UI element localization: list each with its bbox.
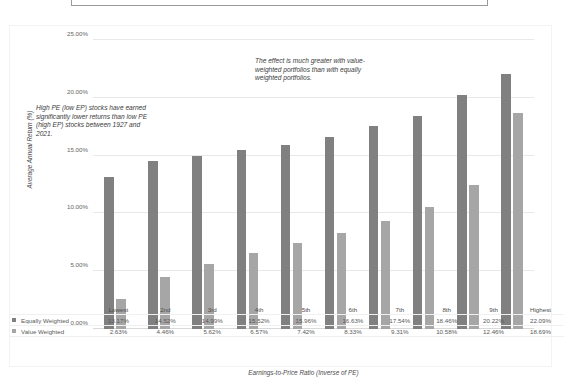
y-axis-tick-label: 10.00% (67, 203, 88, 210)
table-header-row: Lowest2nd3rd4th5th6th7th8th9thHighest (9, 304, 564, 315)
bar-equally-weighted[interactable] (369, 126, 379, 329)
data-table: Lowest2nd3rd4th5th6th7th8th9thHighestEqu… (9, 304, 564, 337)
table-cell-value: 18.46% (423, 315, 470, 326)
bar-group (446, 40, 490, 329)
table-cell-value: 14.52% (142, 315, 189, 326)
x-axis-category-label: 5th (283, 304, 330, 315)
y-axis-tick-label: 25.00% (67, 30, 88, 37)
table-cell-value: 17.54% (376, 315, 423, 326)
x-axis-category-label: 3rd (189, 304, 236, 315)
x-axis-category-label: 4th (236, 304, 283, 315)
legend-swatch-icon (12, 329, 16, 333)
y-axis-tick-label: 5.00% (70, 261, 88, 268)
table-cell-value: 9.31% (376, 326, 423, 337)
table-cell-value: 4.46% (142, 326, 189, 337)
annotation-left: High PE (low EP) stocks have earned sign… (36, 104, 158, 139)
legend-item-equally-weighted[interactable]: Equally Weighted (9, 315, 95, 326)
bar-group (225, 40, 269, 329)
bar-equally-weighted[interactable] (281, 145, 291, 329)
bar-group (490, 40, 534, 329)
x-axis-category-label: 8th (423, 304, 470, 315)
table-cell-value: 7.42% (283, 326, 330, 337)
table-row: Equally Weighted13.17%14.52%14.99%15.52%… (9, 315, 564, 326)
bar-group (269, 40, 313, 329)
table-cell-value: 10.58% (423, 326, 470, 337)
plot-area: 0.00%5.00%10.00%15.00%20.00%25.00% (93, 40, 534, 329)
legend-swatch-icon (12, 318, 16, 322)
chart-title-box (71, 0, 488, 6)
table-cell-value: 22.09% (517, 315, 564, 326)
bar-equally-weighted[interactable] (413, 116, 423, 329)
table-cell-value: 20.22% (470, 315, 517, 326)
x-axis-category-label: 6th (329, 304, 376, 315)
legend-item-value-weighted[interactable]: Value Weighted (9, 326, 95, 337)
bar-equally-weighted[interactable] (501, 74, 511, 329)
table-row: Value Weighted2.63%4.46%5.62%6.57%7.42%8… (9, 326, 564, 337)
legend-label: Equally Weighted (21, 317, 69, 324)
bar-equally-weighted[interactable] (192, 156, 202, 329)
table-corner-cell (9, 304, 95, 315)
bar-group (137, 40, 181, 329)
annotation-right: The effect is much greater with value-we… (255, 57, 383, 83)
bar-value-weighted[interactable] (513, 113, 523, 329)
y-axis-title: Average Annual Return (%) (26, 95, 33, 205)
table-cell-value: 5.62% (189, 326, 236, 337)
x-axis-category-label: 2nd (142, 304, 189, 315)
table-cell-value: 2.63% (95, 326, 142, 337)
bar-group (181, 40, 225, 329)
x-axis-category-label: Highest (517, 304, 564, 315)
table-cell-value: 14.99% (189, 315, 236, 326)
bar-equally-weighted[interactable] (457, 95, 467, 329)
bar-equally-weighted[interactable] (325, 137, 335, 329)
y-axis-tick-label: 20.00% (67, 87, 88, 94)
bar-group (93, 40, 137, 329)
table-cell-value: 16.63% (329, 315, 376, 326)
x-axis-title: Earnings-to-Price Ratio (Inverse of PE) (83, 369, 524, 376)
bar-group (402, 40, 446, 329)
bar-group (358, 40, 402, 329)
y-axis-tick-label: 15.00% (67, 145, 88, 152)
table-cell-value: 8.33% (329, 326, 376, 337)
bar-group (314, 40, 358, 329)
table-cell-value: 15.52% (236, 315, 283, 326)
x-axis-category-label: 9th (470, 304, 517, 315)
table-cell-value: 12.46% (470, 326, 517, 337)
table-cell-value: 15.96% (283, 315, 330, 326)
bar-equally-weighted[interactable] (237, 150, 247, 329)
legend-label: Value Weighted (21, 328, 64, 335)
x-axis-category-label: 7th (376, 304, 423, 315)
table-cell-value: 18.69% (517, 326, 564, 337)
table-cell-value: 13.17% (95, 315, 142, 326)
data-table-body: Lowest2nd3rd4th5th6th7th8th9thHighestEqu… (9, 304, 564, 337)
x-axis-category-label: Lowest (95, 304, 142, 315)
table-cell-value: 6.57% (236, 326, 283, 337)
